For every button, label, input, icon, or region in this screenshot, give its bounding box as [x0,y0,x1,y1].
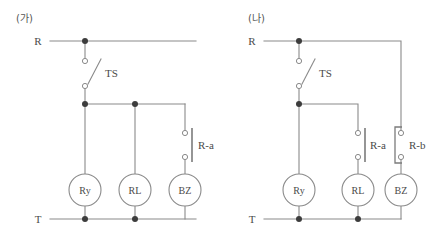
panel-a-device-ry-label: Ry [79,185,90,196]
panel-b-ts-label: TS [319,67,332,79]
junction-bus-rl-a [132,101,138,107]
circuit-figure: (가) [0,0,444,235]
ra-terminal-top-a [182,130,187,135]
junction-t-ry-b [296,216,302,222]
junction-t-rl-a [132,216,138,222]
panel-b-device-bz-label: BZ [395,185,408,196]
panel-b-device-rl-label: RL [352,185,365,196]
panel-a-ts-label: TS [105,67,118,79]
ra-terminal-top-b [355,130,360,135]
panel-b-svg: R T TS R-a R-b Ry RL BZ [222,0,444,235]
junction-bus-ry-b [296,101,302,107]
panel-b-r-label: R [248,35,256,47]
panel-b-rb-label: R-b [409,139,426,151]
junction-r-ts-a [82,38,88,44]
panel-b-t-label: T [249,213,256,225]
r-rail-line-b [264,41,401,131]
panel-b-ra-label: R-a [370,139,386,151]
rb-terminal-top-b [398,130,403,135]
panel-a-t-label: T [35,213,42,225]
panel-a-device-rl-label: RL [129,185,142,196]
circuit-panel-b: (나) [222,0,444,235]
panel-b-device-ry-label: Ry [293,185,304,196]
panel-a-svg: R T TS R-a Ry RL BZ [0,0,222,235]
bus-line-b [299,104,358,131]
rb-terminal-bottom-b [398,154,403,159]
ra-terminal-bottom-a [182,154,187,159]
ts-blade-a [88,59,101,84]
panel-a-caption: (가) [16,10,33,25]
panel-a-device-bz-label: BZ [179,185,192,196]
ra-terminal-bottom-b [355,154,360,159]
ts-terminal-bottom-b [296,83,301,88]
panel-a-ra-label: R-a [198,139,214,151]
ts-terminal-bottom-a [82,83,87,88]
junction-t-rl-b [355,216,361,222]
panel-b-caption: (나) [248,10,265,25]
panel-a-r-label: R [34,35,42,47]
ts-terminal-top-a [82,58,87,63]
ts-terminal-top-b [296,58,301,63]
junction-t-ry-a [82,216,88,222]
ts-blade-b [302,59,315,84]
junction-r-ts-b [296,38,302,44]
circuit-panel-a: (가) [0,0,222,235]
junction-bus-ry-a [82,101,88,107]
